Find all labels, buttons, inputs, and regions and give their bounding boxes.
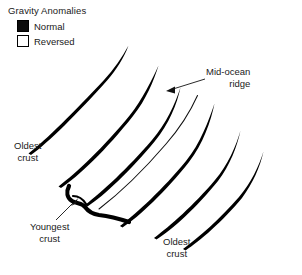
legend-item-normal: Normal <box>17 20 86 32</box>
legend-title: Gravity Anomalies <box>8 5 86 16</box>
annotation-mid-ocean-ridge: Mid-ocean ridge <box>206 66 250 90</box>
annotation-mid-ocean-ridge-line1: Mid-ocean <box>206 66 250 78</box>
annotation-oldest-crust-left-line2: crust <box>14 152 41 164</box>
legend-label-reversed: Reversed <box>34 36 75 47</box>
annotation-mid-ocean-ridge-line2: ridge <box>206 78 250 90</box>
annotation-oldest-crust-bottom-line2: crust <box>163 248 190 260</box>
legend-swatch-normal-icon <box>17 20 29 32</box>
annotation-oldest-crust-left-line1: Oldest <box>14 140 41 152</box>
legend-label-normal: Normal <box>34 21 65 32</box>
gravity-anomalies-diagram: Gravity Anomalies Normal Reversed Mid-oc… <box>0 0 302 275</box>
annotation-youngest-crust-line1: Youngest <box>30 221 69 233</box>
annotation-youngest-crust: Youngest crust <box>30 221 69 245</box>
annotation-oldest-crust-bottom-line1: Oldest <box>163 236 190 248</box>
annotation-oldest-crust-left: Oldest crust <box>14 140 41 164</box>
legend-item-reversed: Reversed <box>17 35 86 47</box>
legend: Gravity Anomalies Normal Reversed <box>8 5 86 50</box>
annotation-oldest-crust-bottom: Oldest crust <box>163 236 190 260</box>
legend-swatch-reversed-icon <box>17 35 29 47</box>
annotation-youngest-crust-line2: crust <box>30 233 69 245</box>
